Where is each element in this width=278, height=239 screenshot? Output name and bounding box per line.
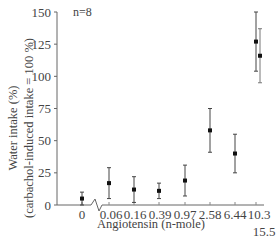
mean-marker [107,181,111,185]
water-intake-chart: Water intake (%) (carbachol-induced inta… [0,0,278,239]
y-axis-title-line1: Water intake (%) [6,85,20,170]
mean-marker [254,40,258,44]
data-point [157,183,161,198]
mean-marker [233,152,237,156]
y-tick-label: 75 [38,101,51,116]
y-tick-label: 50 [38,133,51,148]
data-point [183,165,187,196]
mean-marker [80,197,84,201]
y-tick-label: 25 [38,165,51,180]
mean-marker [183,179,187,183]
data-point [233,134,237,173]
data-point [107,168,111,199]
x-tick-label: 10.3 [248,207,271,222]
y-axis-title: Water intake (%) (carbachol-induced inta… [6,38,36,218]
x-tick-label: 6.44 [224,207,247,222]
data-point [208,109,212,153]
y-axis-title-line2: (carbachol-induced intake = 100 %) [22,38,36,218]
y-tick-label: 100 [32,69,52,84]
data-point [80,192,84,205]
y-tick-label: 0 [45,198,52,213]
x-tick-label: 0 [79,207,86,222]
x-axis-title: Angiotensin (n-mole) [97,217,205,231]
data-point [258,29,262,83]
y-tick-label: 150 [32,5,52,20]
mean-marker [132,188,136,192]
mean-marker [258,54,262,58]
y-tick-label: 125 [32,37,52,52]
x-tick-label: 15.5 [253,224,276,239]
mean-marker [208,128,212,132]
data-point [254,12,258,71]
data-points [80,12,262,205]
sample-size-annotation: n=8 [73,5,92,19]
mean-marker [157,189,161,193]
data-point [132,177,136,203]
